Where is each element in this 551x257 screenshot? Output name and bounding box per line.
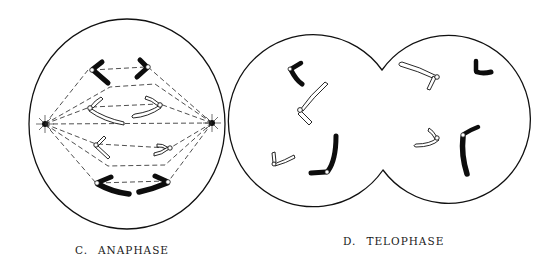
telophase-left-chromosome-dark-2 bbox=[311, 136, 336, 174]
chromosome-dark-top-right bbox=[137, 60, 150, 77]
telophase-right-chromosome-light-1 bbox=[399, 62, 439, 90]
anaphase-caption: C.ANAPHASE bbox=[75, 244, 169, 256]
chromosome-dark-bottom-left bbox=[95, 177, 129, 194]
anaphase-cell-membrane bbox=[29, 19, 225, 229]
telophase-caption: D.TELOPHASE bbox=[343, 235, 444, 247]
chromosome-dark-top-left bbox=[90, 62, 108, 83]
telophase-left-chromosome-light-1 bbox=[298, 82, 328, 125]
telophase-panel bbox=[228, 35, 530, 207]
anaphase-panel bbox=[29, 19, 225, 229]
anaphase-title: ANAPHASE bbox=[98, 244, 169, 256]
telophase-title: TELOPHASE bbox=[366, 235, 444, 247]
telophase-left-chromosome-light-2 bbox=[272, 152, 295, 166]
telophase-right-chromosome-dark-1 bbox=[476, 61, 491, 73]
chromosome-light-upper-left bbox=[88, 97, 124, 125]
mitosis-figure bbox=[0, 0, 551, 257]
telophase-right-chromosome-dark-2 bbox=[461, 127, 478, 174]
chromosome-light-upper-right bbox=[132, 96, 162, 118]
chromosome-light-lower-right bbox=[154, 144, 172, 156]
telophase-letter: D. bbox=[343, 235, 356, 247]
spindle-fibers bbox=[45, 67, 212, 183]
telophase-left-chromosome-dark-1 bbox=[288, 63, 302, 84]
anaphase-letter: C. bbox=[75, 244, 88, 256]
telophase-right-chromosome-light-2 bbox=[414, 128, 439, 147]
chromosome-dark-bottom-right bbox=[139, 176, 170, 192]
chromosome-light-lower-left bbox=[94, 136, 110, 159]
telophase-cell-membrane bbox=[228, 35, 530, 207]
